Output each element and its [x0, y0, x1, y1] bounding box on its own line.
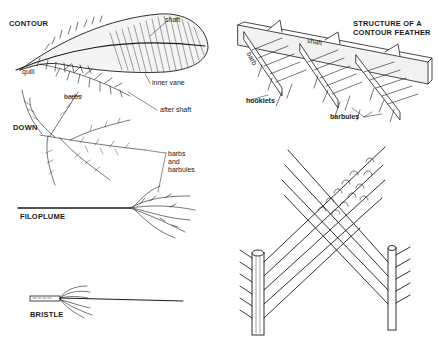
- contour-inner-vane-label: inner vane: [152, 79, 185, 86]
- contour-quill-label: quill: [22, 68, 34, 75]
- down-barbs-label: barbs: [64, 93, 82, 100]
- down-feather-drawing: [22, 90, 158, 185]
- feather-diagram: CONTOUR shaft quill inner vane after sha…: [0, 0, 439, 339]
- contour-caption: CONTOUR: [9, 20, 48, 28]
- structure-caption: STRUCTURE OF A CONTOUR FEATHER: [353, 20, 431, 37]
- structure-hooklets-label: hooklets: [246, 97, 275, 104]
- barbs-barbules-leader: [158, 152, 166, 192]
- barbs-and-barbules-label: barbs and barbules: [168, 150, 195, 174]
- structure-barbules-label: barbules: [330, 113, 359, 120]
- barbule-interlock-drawing: [240, 147, 410, 335]
- contour-shaft-label: shaft: [165, 16, 180, 23]
- contour-after-shaft-label: after shaft: [160, 106, 191, 113]
- filoplume-caption: FILOPLUME: [20, 213, 65, 221]
- down-caption: DOWN: [13, 124, 38, 132]
- feather-illustrations: [0, 0, 439, 339]
- bristle-caption: BRISTLE: [30, 311, 63, 319]
- contour-feather-drawing: [16, 14, 208, 110]
